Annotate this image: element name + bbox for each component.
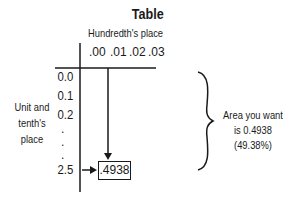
annotation-line: is 0.4938 [218,123,288,138]
diagram-lines [0,0,295,202]
annotation-line: (49.38%) [218,138,288,153]
answer-cell: .4938 [98,161,131,180]
curly-brace-icon [198,72,213,170]
area-annotation: Area you want is 0.4938 (49.38%) [218,108,288,153]
down-arrow-icon [104,153,112,160]
right-arrow-icon [90,166,97,174]
annotation-line: Area you want [218,108,288,123]
